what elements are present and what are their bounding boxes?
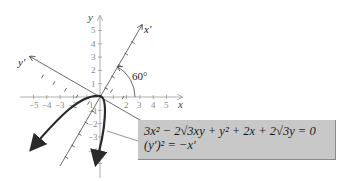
svg-text:3: 3 — [137, 100, 142, 110]
svg-text:5: 5 — [91, 25, 96, 35]
x-axis-label: x — [177, 98, 183, 110]
y-axis-label: y — [87, 11, 93, 23]
svg-text:3: 3 — [91, 52, 96, 62]
rotation-angle-marker: 60° — [118, 67, 148, 97]
svg-text:5: 5 — [164, 100, 169, 110]
svg-text:−3: −3 — [88, 132, 98, 142]
rotated-equation: (y′)² = −x′ — [144, 138, 329, 152]
y-prime-label: y′ — [17, 56, 26, 68]
svg-text:−4: −4 — [88, 146, 98, 156]
svg-text:2: 2 — [124, 100, 129, 110]
svg-text:4: 4 — [91, 39, 96, 49]
equation-box: 3x² − 2√3xy + y² + 2x + 2√3y = 0 (y′)² =… — [138, 120, 336, 160]
general-equation: 3x² − 2√3xy + y² + 2x + 2√3y = 0 — [144, 124, 329, 138]
y-prime-axis: y′ — [17, 56, 148, 125]
x-tick-label: −5 — [29, 100, 39, 110]
svg-text:1: 1 — [91, 79, 96, 89]
svg-text:4: 4 — [151, 100, 156, 110]
svg-text:−2: −2 — [88, 119, 98, 129]
leader-line — [107, 131, 138, 141]
svg-text:−3: −3 — [55, 100, 65, 110]
angle-label: 60° — [132, 70, 147, 82]
svg-text:−4: −4 — [42, 100, 52, 110]
x-prime-label: x′ — [143, 23, 152, 35]
svg-text:2: 2 — [91, 65, 96, 75]
